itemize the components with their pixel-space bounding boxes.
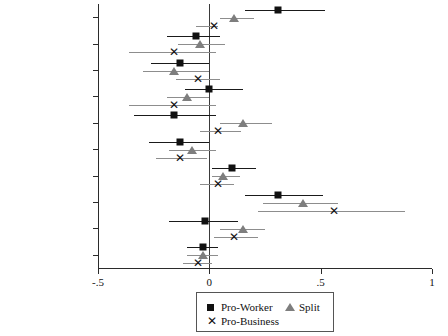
- y-tick: [93, 44, 98, 45]
- y-tick: [93, 70, 98, 71]
- legend-label: Split: [299, 301, 320, 313]
- legend-label: Pro-Worker: [221, 301, 273, 313]
- chart-legend: Pro-WorkerSplit✕Pro-Business: [196, 292, 334, 332]
- marker-x-pro-business: ✕: [169, 46, 179, 58]
- marker-triangle-split: [169, 67, 179, 75]
- y-tick: [93, 96, 98, 97]
- marker-x-pro-business: ✕: [213, 178, 223, 190]
- marker-square-pro-worker: [275, 191, 282, 198]
- marker-x-pro-business: ✕: [209, 20, 219, 32]
- marker-square-pro-worker: [192, 33, 199, 40]
- marker-square-pro-worker: [177, 138, 184, 145]
- x-tick-label: .5: [317, 276, 325, 288]
- confidence-interval-bar: [245, 10, 325, 11]
- y-tick: [93, 17, 98, 18]
- marker-x-pro-business: ✕: [193, 257, 203, 269]
- marker-x-pro-business: ✕: [229, 231, 239, 243]
- marker-square-pro-worker: [228, 165, 235, 172]
- marker-triangle-split: [238, 119, 248, 127]
- y-tick: [93, 255, 98, 256]
- x-tick: [209, 269, 210, 274]
- confidence-interval-bar: [185, 89, 243, 90]
- x-tick-label: 1: [429, 276, 435, 288]
- plot-area: ✕✕✕✕✕✕✕✕✕✕ -.50.51: [98, 4, 432, 268]
- marker-square-pro-worker: [275, 6, 282, 13]
- legend-label: Pro-Business: [221, 315, 279, 327]
- marker-square-pro-worker: [177, 59, 184, 66]
- x-tick-label: 0: [207, 276, 213, 288]
- y-tick: [93, 176, 98, 177]
- marker-square-pro-worker: [199, 244, 206, 251]
- x-tick: [432, 269, 433, 274]
- marker-x-pro-business: ✕: [169, 99, 179, 111]
- marker-x-pro-business: ✕: [213, 125, 223, 137]
- x-tick-label: -.5: [92, 276, 104, 288]
- y-axis-spine: [98, 4, 99, 268]
- marker-x-pro-business: ✕: [329, 205, 339, 217]
- legend-marker-triangle-icon: [285, 303, 295, 311]
- marker-square-pro-worker: [170, 112, 177, 119]
- legend-marker-square-icon: [207, 304, 214, 311]
- marker-square-pro-worker: [201, 217, 208, 224]
- marker-triangle-split: [298, 199, 308, 207]
- marker-triangle-split: [187, 146, 197, 154]
- marker-triangle-split: [238, 225, 248, 233]
- y-tick: [93, 228, 98, 229]
- marker-x-pro-business: ✕: [175, 152, 185, 164]
- forest-plot-figure: ✕✕✕✕✕✕✕✕✕✕ -.50.51 Strikes (Change)Log G…: [0, 0, 448, 336]
- x-tick: [98, 269, 99, 274]
- y-tick: [93, 202, 98, 203]
- marker-triangle-split: [182, 93, 192, 101]
- marker-triangle-split: [229, 14, 239, 22]
- legend-marker-x-icon: ✕: [207, 315, 217, 327]
- marker-triangle-split: [195, 40, 205, 48]
- marker-x-pro-business: ✕: [193, 73, 203, 85]
- confidence-interval-bar: [245, 195, 323, 196]
- y-tick: [93, 149, 98, 150]
- marker-square-pro-worker: [206, 85, 213, 92]
- x-tick: [321, 269, 322, 274]
- y-tick: [93, 123, 98, 124]
- x-axis-spine: [98, 268, 432, 269]
